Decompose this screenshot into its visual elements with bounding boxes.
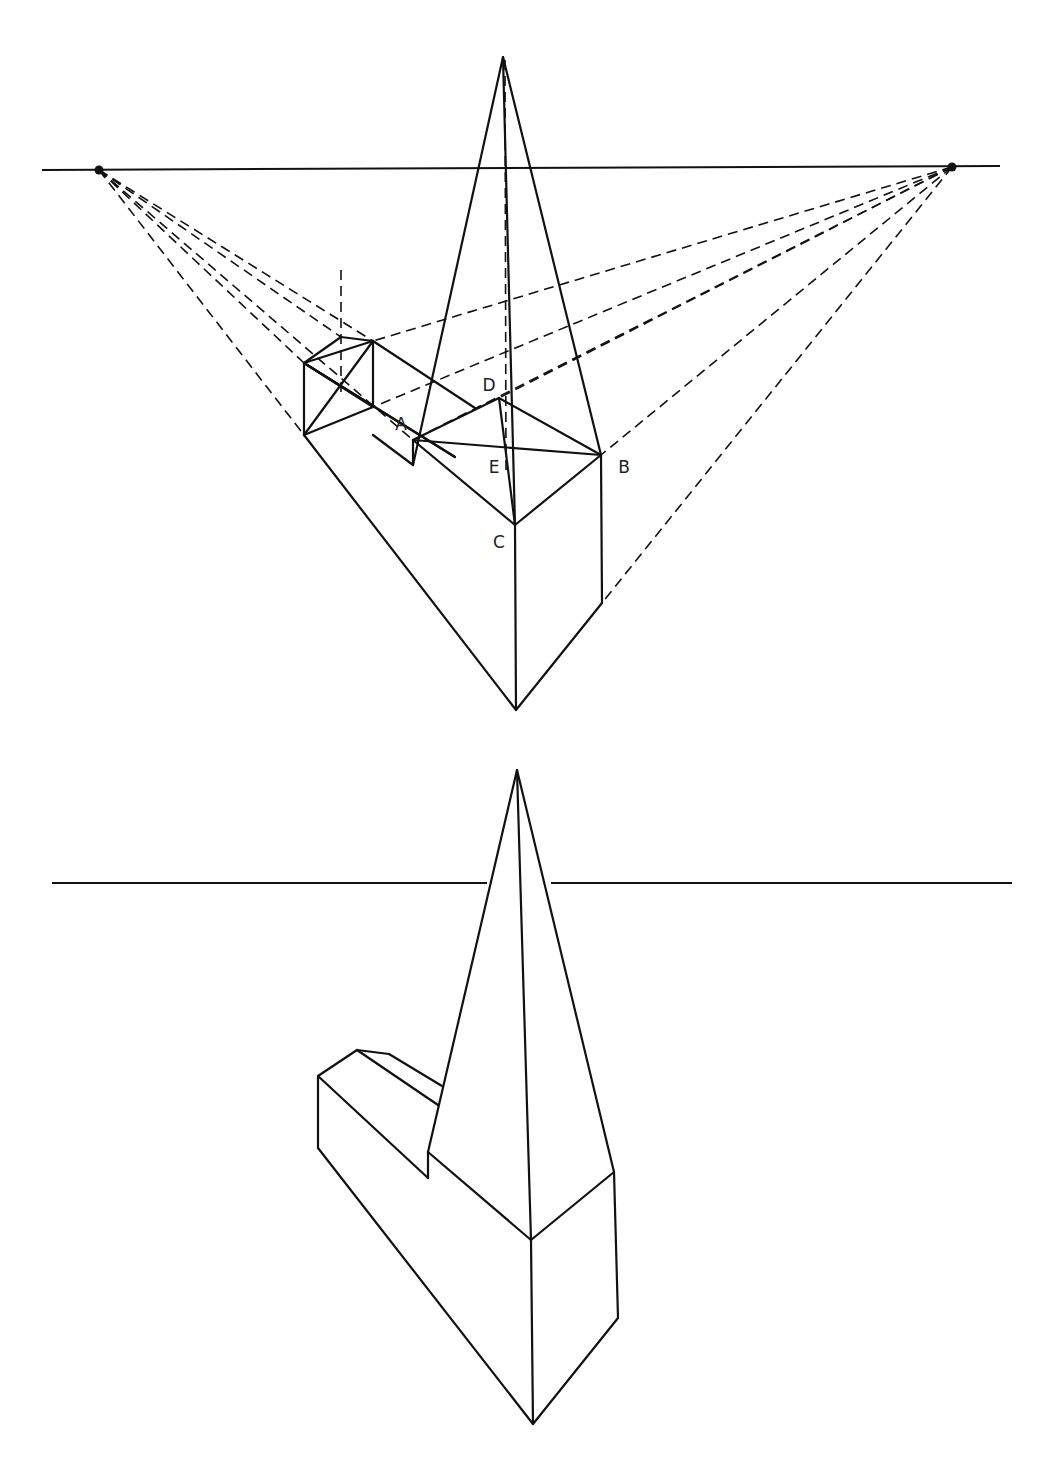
- outline-edge: [318, 1148, 533, 1424]
- outline-edge: [304, 435, 516, 710]
- outline-edge: [428, 770, 517, 1152]
- outline-edge: [531, 1240, 533, 1424]
- label-point-a: A: [395, 416, 407, 433]
- outline-edge: [531, 1172, 614, 1240]
- outline-edge: [318, 1050, 357, 1076]
- outline-edge: [516, 603, 602, 710]
- construction-line: [413, 167, 952, 440]
- spire-and-building-outline: [304, 57, 602, 710]
- right-vanishing-point-icon: [948, 163, 957, 172]
- construction-line: [99, 170, 304, 363]
- construction-line: [99, 170, 413, 440]
- construction-dashed-lines: [99, 60, 952, 603]
- outline-edge: [601, 455, 602, 603]
- left-vanishing-point-icon: [95, 166, 104, 175]
- label-point-d: D: [482, 377, 495, 394]
- label-point-e: E: [489, 459, 500, 476]
- outline-edge: [428, 1152, 531, 1240]
- outline-edge: [373, 341, 475, 408]
- label-point-b: B: [618, 459, 630, 476]
- outline-edge: [533, 1318, 618, 1424]
- perspective-diagram: [0, 0, 1058, 1476]
- outline-edge: [503, 57, 601, 455]
- outline-edge: [499, 398, 601, 455]
- construction-line: [601, 167, 952, 455]
- construction-line: [602, 167, 952, 603]
- outline-edge: [515, 525, 516, 710]
- outline-edge: [614, 1172, 618, 1318]
- outline-edge: [373, 435, 413, 465]
- construction-line: [99, 170, 373, 341]
- outline-edge: [304, 341, 373, 363]
- outline-edge: [517, 770, 614, 1172]
- construction-line: [373, 167, 952, 407]
- outline-edge: [341, 337, 373, 341]
- top-construction-figure: [42, 57, 1000, 710]
- construction-line: [99, 170, 341, 337]
- outline-edge: [389, 1054, 442, 1086]
- outline-edge: [413, 440, 515, 525]
- finished-spire-and-building-outline: [318, 770, 618, 1424]
- label-point-c: C: [493, 534, 505, 551]
- construction-line: [99, 170, 304, 435]
- outline-edge: [517, 770, 531, 1240]
- outline-edge: [318, 1076, 428, 1178]
- top-horizon-line: [42, 166, 1000, 170]
- outline-edge: [515, 455, 601, 525]
- bottom-finished-figure: [52, 770, 1012, 1424]
